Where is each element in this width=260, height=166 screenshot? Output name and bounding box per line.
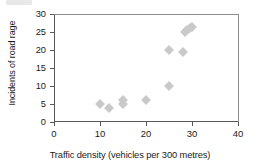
- x-axis-label: Traffic density (vehicles per 300 metres…: [0, 150, 260, 160]
- y-tick-label: 5: [8, 99, 46, 109]
- y-tick-mark: [50, 14, 54, 15]
- y-tick-mark: [50, 32, 54, 33]
- y-tick-label: 0: [8, 117, 46, 127]
- y-tick-mark: [50, 68, 54, 69]
- x-tick-label: 0: [34, 128, 74, 139]
- y-tick-mark: [50, 86, 54, 87]
- x-tick-label: 20: [126, 128, 166, 139]
- y-tick-label: 25: [8, 27, 46, 37]
- y-tick-label: 30: [8, 9, 46, 19]
- y-tick-mark: [50, 104, 54, 105]
- x-tick-label: 40: [218, 128, 258, 139]
- x-tick-mark: [192, 122, 193, 126]
- plot-top-border: [54, 14, 238, 15]
- x-tick-mark: [146, 122, 147, 126]
- scatter-chart: Incidents of road rage 051015202530 0102…: [0, 0, 260, 166]
- x-tick-mark: [100, 122, 101, 126]
- x-tick-label: 30: [172, 128, 212, 139]
- plot-area: [54, 14, 238, 122]
- y-tick-label: 20: [8, 45, 46, 55]
- y-tick-label: 15: [8, 63, 46, 73]
- y-tick-label: 10: [8, 81, 46, 91]
- x-tick-mark: [54, 122, 55, 126]
- x-tick-mark: [238, 122, 239, 126]
- x-tick-label: 10: [80, 128, 120, 139]
- plot-right-border: [238, 14, 239, 122]
- y-tick-mark: [50, 50, 54, 51]
